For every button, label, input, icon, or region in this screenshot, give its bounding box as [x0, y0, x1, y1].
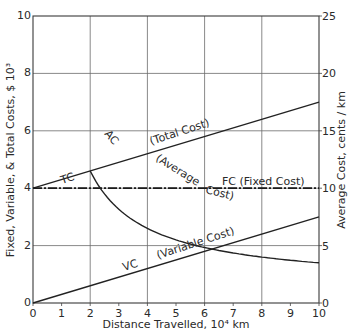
y-tick-label: 8 [24, 66, 31, 79]
label-fc: FC (Fixed Cost) [222, 175, 305, 188]
y-axis-left-ticks: 0246810 [17, 9, 31, 309]
y-tick-label: 2 [24, 239, 31, 252]
y-axis-right-title: Average Cost, cents / km [335, 91, 348, 229]
x-tick-label: 2 [87, 307, 94, 320]
x-tick-label: 9 [287, 307, 294, 320]
y-axis-left-title: Fixed, Variable, & Total Costs, $ 10³ [4, 63, 17, 257]
y-tick-label: 10 [17, 9, 31, 22]
cost-chart: 012345678910 0246810 0510152025 Distance… [0, 0, 353, 335]
label-average: (Average [153, 152, 202, 189]
y2-tick-label: 0 [322, 297, 329, 310]
x-tick-label: 1 [58, 307, 65, 320]
y2-tick-label: 15 [322, 125, 336, 138]
series-vc-line [33, 217, 319, 303]
y2-tick-label: 10 [322, 182, 336, 195]
y-tick-label: 0 [24, 296, 31, 309]
y-tick-label: 4 [24, 181, 31, 194]
x-tick-label: 8 [258, 307, 265, 320]
label-variable-cost: (Variable Cost) [155, 224, 236, 261]
y2-tick-label: 25 [322, 10, 336, 23]
y2-tick-label: 5 [322, 240, 329, 253]
label-total-cost: (Total Cost) [148, 116, 211, 148]
y-axis-right-ticks: 0510152025 [319, 10, 336, 310]
label-tc: TC [58, 170, 76, 187]
y2-tick-label: 20 [322, 67, 336, 80]
x-axis-title: Distance Travelled, 10⁴ km [102, 318, 249, 331]
y-tick-label: 6 [24, 124, 31, 137]
